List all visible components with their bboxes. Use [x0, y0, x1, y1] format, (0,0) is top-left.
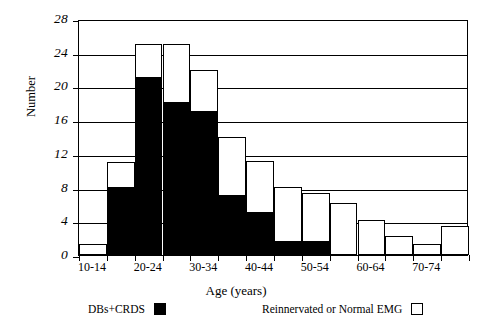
bar-segment-reinnervated-or-normal-emg — [274, 187, 302, 243]
x-axis-tick — [163, 255, 164, 261]
chart-legend: DBs+CRDSReinnervated or Normal EMG — [0, 303, 490, 325]
y-axis-tick — [73, 190, 79, 191]
bar-segment-reinnervated-or-normal-emg — [190, 70, 218, 112]
x-axis-tick-label: 20-24 — [134, 260, 162, 275]
y-axis-tick — [73, 223, 79, 224]
bar-segment-reinnervated-or-normal-emg — [302, 193, 330, 242]
x-axis-tick-label: 30-34 — [189, 260, 217, 275]
x-axis-title: Age (years) — [0, 283, 490, 299]
bar-segment-reinnervated-or-normal-emg — [358, 220, 386, 255]
bar — [274, 187, 302, 255]
x-axis-tick-label: 10-14 — [78, 260, 106, 275]
x-axis-title-text: Age (years) — [206, 283, 267, 299]
bar-segment-reinnervated-or-normal-emg — [107, 162, 135, 187]
bar — [385, 236, 413, 255]
bar-segment-reinnervated-or-normal-emg — [135, 44, 163, 78]
bar-segment-dbs-crds — [246, 213, 274, 255]
bar — [246, 161, 274, 255]
legend-entry: Reinnervated or Normal EMG — [262, 303, 423, 315]
x-axis-tick-label: 40-44 — [245, 260, 273, 275]
y-axis-tick — [73, 156, 79, 157]
x-axis-tick — [385, 255, 386, 261]
y-axis-tick-label: 24 — [36, 45, 68, 61]
legend-label: DBs+CRDS — [88, 303, 145, 315]
bar-segment-dbs-crds — [302, 242, 330, 255]
y-axis-tick-label: 28 — [36, 11, 68, 27]
y-axis-tick-label: 12 — [36, 146, 68, 162]
x-axis-tick-label: 50-54 — [301, 260, 329, 275]
y-axis-tick-label: 4 — [36, 213, 68, 229]
y-axis-tick-label: 0 — [36, 247, 68, 263]
legend-entry: DBs+CRDS — [88, 303, 166, 315]
x-axis-tick — [218, 255, 219, 261]
bar — [302, 193, 330, 255]
x-axis-tick — [107, 255, 108, 261]
bar-segment-dbs-crds — [274, 242, 302, 255]
legend-swatch-black — [154, 303, 166, 315]
bar-segment-reinnervated-or-normal-emg — [385, 236, 413, 255]
bar-segment-reinnervated-or-normal-emg — [330, 203, 358, 255]
bar-segment-reinnervated-or-normal-emg — [246, 161, 274, 213]
bar-segment-reinnervated-or-normal-emg — [163, 44, 191, 103]
x-axis-tick — [469, 255, 470, 261]
bar — [107, 162, 135, 255]
x-axis-tick-label: 70-74 — [412, 260, 440, 275]
bar — [358, 220, 386, 255]
legend-swatch-white — [411, 303, 423, 315]
y-axis-tick — [73, 21, 79, 22]
bar — [163, 44, 191, 255]
bar — [135, 44, 163, 255]
bar-segment-dbs-crds — [107, 188, 135, 255]
bar-segment-reinnervated-or-normal-emg — [79, 244, 107, 255]
y-axis-tick — [73, 55, 79, 56]
bar — [441, 226, 469, 255]
x-axis-tick-label: 60-64 — [357, 260, 385, 275]
bar — [218, 137, 246, 255]
bar — [190, 70, 218, 255]
bar-segment-dbs-crds — [190, 112, 218, 255]
bar-segment-dbs-crds — [135, 78, 163, 255]
bar — [413, 244, 441, 255]
y-axis-tick-label: 16 — [36, 112, 68, 128]
bar — [79, 244, 107, 255]
x-axis-tick — [330, 255, 331, 261]
bar-segment-reinnervated-or-normal-emg — [413, 244, 441, 255]
bar — [330, 203, 358, 255]
y-axis-tick — [73, 88, 79, 89]
bar-segment-reinnervated-or-normal-emg — [441, 226, 469, 255]
x-axis-tick — [274, 255, 275, 261]
bar-segment-dbs-crds — [163, 103, 191, 255]
chart-figure: Number 0481216202428 10-1420-2430-3440-4… — [0, 0, 490, 331]
plot-area — [78, 20, 468, 256]
legend-label: Reinnervated or Normal EMG — [262, 303, 402, 315]
x-axis-tick — [441, 255, 442, 261]
y-axis-tick-label: 8 — [36, 180, 68, 196]
y-axis-tick — [73, 122, 79, 123]
y-axis-tick-label: 20 — [36, 78, 68, 94]
bar-segment-reinnervated-or-normal-emg — [218, 137, 246, 196]
bar-segment-dbs-crds — [218, 196, 246, 255]
